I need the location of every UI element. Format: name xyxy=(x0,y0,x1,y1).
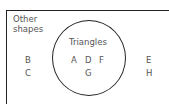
set-label-triangles: Triangles xyxy=(69,37,107,47)
element-a: A xyxy=(71,55,77,65)
universal-set-label-line1: Other xyxy=(13,14,43,24)
element-d: D xyxy=(85,55,92,65)
element-h: H xyxy=(146,68,152,78)
element-c: C xyxy=(25,68,31,78)
universal-set-label: Other shapes xyxy=(13,14,43,34)
element-b: B xyxy=(25,55,31,65)
element-e: E xyxy=(146,55,151,65)
universal-set-label-line2: shapes xyxy=(13,24,43,34)
element-g: G xyxy=(85,68,92,78)
element-f: F xyxy=(99,55,104,65)
